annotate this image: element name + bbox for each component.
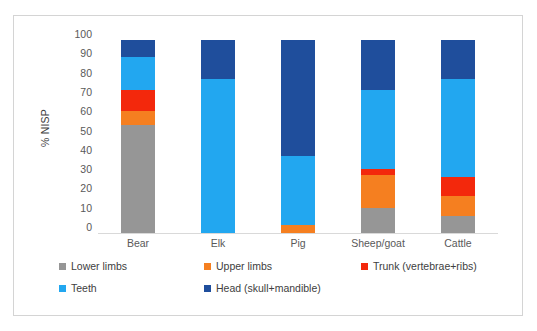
- y-axis-tick-label: 50: [62, 125, 92, 136]
- bar-segment[interactable]: [121, 57, 155, 90]
- x-axis-tick-labels: BearElkPigSheep/goatCattle: [98, 237, 498, 253]
- bar-segment[interactable]: [281, 40, 315, 156]
- bar-segment[interactable]: [281, 225, 315, 233]
- y-axis-tick-label: 60: [62, 106, 92, 117]
- y-axis-tick-label: 70: [62, 87, 92, 98]
- y-axis-tick-label: 10: [62, 202, 92, 213]
- bar-segment[interactable]: [441, 40, 475, 79]
- legend-item-label: Head (skull+mandible): [216, 283, 321, 294]
- bar-segment[interactable]: [281, 156, 315, 225]
- x-axis-tick-label: Pig: [258, 237, 338, 249]
- chart-legend: Lower limbsUpper limbsTrunk (vertebrae+r…: [59, 261, 509, 305]
- y-axis-tick-label: 40: [62, 145, 92, 156]
- y-axis-tick-labels: 1009080706050403020100: [62, 34, 92, 231]
- bar-segment[interactable]: [201, 40, 235, 79]
- bar-segment[interactable]: [441, 196, 475, 215]
- y-axis-tick-label: 20: [62, 183, 92, 194]
- legend-item[interactable]: Trunk (vertebrae+ribs): [361, 261, 477, 272]
- bar-pig[interactable]: [281, 40, 315, 233]
- legend-item[interactable]: Head (skull+mandible): [204, 283, 321, 294]
- legend-item[interactable]: Upper limbs: [204, 261, 272, 272]
- legend-swatch-icon: [361, 263, 368, 270]
- bar-segment[interactable]: [361, 208, 395, 233]
- x-axis-tick-label: Sheep/goat: [338, 237, 418, 249]
- legend-item-label: Upper limbs: [216, 261, 272, 272]
- x-axis-tick-label: Bear: [98, 237, 178, 249]
- y-axis-tick-label: 100: [62, 29, 92, 40]
- bar-segment[interactable]: [361, 175, 395, 208]
- bar-cattle[interactable]: [441, 40, 475, 233]
- bar-segment[interactable]: [121, 111, 155, 125]
- legend-swatch-icon: [204, 285, 211, 292]
- y-axis-title: % NISP: [39, 73, 51, 183]
- bar-bear[interactable]: [121, 40, 155, 233]
- legend-swatch-icon: [59, 285, 66, 292]
- y-axis-tick-label: 80: [62, 67, 92, 78]
- legend-swatch-icon: [204, 263, 211, 270]
- bar-segment[interactable]: [441, 79, 475, 177]
- legend-item-label: Trunk (vertebrae+ribs): [373, 261, 477, 272]
- bar-segment[interactable]: [361, 169, 395, 175]
- bar-segment[interactable]: [441, 177, 475, 196]
- x-axis-tick-label: Elk: [178, 237, 258, 249]
- bar-segment[interactable]: [121, 40, 155, 57]
- bar-sheep-goat[interactable]: [361, 40, 395, 233]
- bar-segment[interactable]: [121, 90, 155, 111]
- bar-segment[interactable]: [201, 79, 235, 233]
- y-axis-tick-label: 0: [62, 222, 92, 233]
- legend-item[interactable]: Lower limbs: [59, 261, 127, 272]
- y-axis-tick-label: 90: [62, 48, 92, 59]
- x-axis-tick-label: Cattle: [418, 237, 498, 249]
- chart-frame: % NISP 1009080706050403020100 BearElkPig…: [13, 15, 523, 316]
- bar-segment[interactable]: [361, 40, 395, 90]
- plot-area: [98, 40, 498, 233]
- bar-segment[interactable]: [121, 125, 155, 233]
- bar-elk[interactable]: [201, 40, 235, 233]
- bar-segment[interactable]: [441, 216, 475, 233]
- chart-plot-wrapper: % NISP 1009080706050403020100 BearElkPig…: [14, 16, 522, 315]
- x-axis-line: [98, 233, 498, 234]
- legend-item-label: Teeth: [71, 283, 97, 294]
- legend-item-label: Lower limbs: [71, 261, 127, 272]
- legend-swatch-icon: [59, 263, 66, 270]
- legend-item[interactable]: Teeth: [59, 283, 97, 294]
- y-axis-tick-label: 30: [62, 164, 92, 175]
- bar-segment[interactable]: [361, 90, 395, 169]
